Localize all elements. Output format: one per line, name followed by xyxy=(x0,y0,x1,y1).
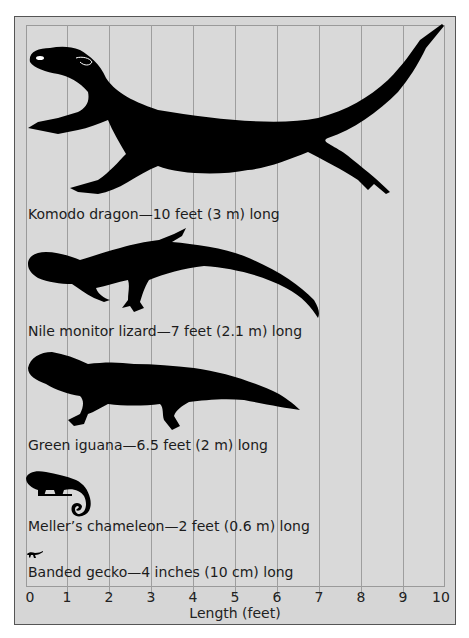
tick-label: 9 xyxy=(399,589,408,605)
nile-monitor-silhouette-icon xyxy=(24,222,324,322)
tick-label: 6 xyxy=(273,589,282,605)
x-axis-label: Length (feet) xyxy=(189,605,280,621)
caption-nile-monitor: Nile monitor lizard—7 feet (2.1 m) long xyxy=(28,323,302,339)
gecko-silhouette-icon xyxy=(26,549,44,559)
tick-label: 3 xyxy=(147,589,156,605)
tick-label: 7 xyxy=(315,589,324,605)
caption-komodo-dragon: Komodo dragon—10 feet (3 m) long xyxy=(28,206,280,222)
caption-green-iguana: Green iguana—6.5 feet (2 m) long xyxy=(28,437,268,453)
tick-label: 8 xyxy=(357,589,366,605)
caption-chameleon: Meller’s chameleon—2 feet (0.6 m) long xyxy=(28,518,310,534)
caption-banded-gecko: Banded gecko—4 inches (10 cm) long xyxy=(28,564,294,580)
tick-label: 5 xyxy=(231,589,240,605)
green-iguana-silhouette-icon xyxy=(24,350,304,435)
tick-label: 4 xyxy=(189,589,198,605)
tick-label: 0 xyxy=(26,589,35,605)
chameleon-silhouette-icon xyxy=(24,470,99,520)
komodo-dragon-silhouette-icon xyxy=(18,20,448,200)
tick-label: 1 xyxy=(63,589,72,605)
tick-label: 2 xyxy=(105,589,114,605)
tick-label: 10 xyxy=(432,589,450,605)
